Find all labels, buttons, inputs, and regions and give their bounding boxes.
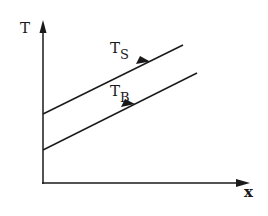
x-axis-label: x — [244, 183, 254, 201]
line-ts-label: TS — [110, 39, 129, 62]
y-axis-label: T — [20, 19, 30, 37]
y-axis-arrow-icon — [40, 20, 47, 33]
diagram-canvas: T x TS TB — [0, 0, 268, 216]
line-tb-label: TB — [110, 82, 130, 105]
